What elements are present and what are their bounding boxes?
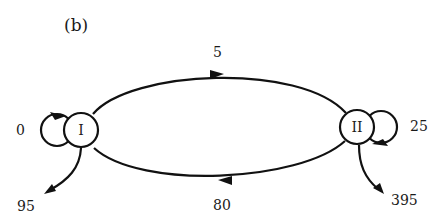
panel-label: (b) bbox=[64, 15, 88, 35]
exit-edge-I: 95 bbox=[17, 148, 81, 214]
edge-label-95: 95 bbox=[17, 198, 35, 214]
node-label-I: I bbox=[78, 122, 84, 138]
node-II: II bbox=[340, 110, 374, 144]
edge-I-to-II: 5 bbox=[93, 44, 346, 114]
arrowhead-icon bbox=[218, 176, 232, 185]
edge-label-25: 25 bbox=[410, 118, 428, 134]
edge-II-to-I: 80 bbox=[94, 141, 345, 213]
node-I: I bbox=[64, 113, 98, 147]
edge-label-5: 5 bbox=[213, 44, 222, 60]
edge-label-395: 395 bbox=[391, 192, 418, 208]
edge-label-80: 80 bbox=[213, 197, 231, 213]
arrowhead-icon bbox=[44, 184, 56, 194]
exit-edge-II: 395 bbox=[359, 145, 418, 208]
state-transition-diagram: (b) 5 80 0 25 95 395 I bbox=[0, 0, 442, 219]
node-label-II: II bbox=[351, 119, 362, 135]
edge-label-0: 0 bbox=[16, 122, 25, 138]
